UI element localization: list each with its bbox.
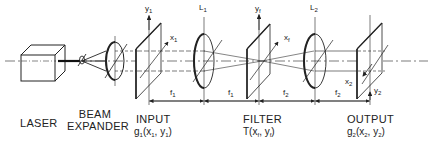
lens-l2-label: L2 bbox=[310, 3, 318, 13]
output-y-axis-label: y2 bbox=[374, 86, 381, 96]
output-plane bbox=[357, 15, 388, 105]
distance-label-f1-a: f1 bbox=[170, 88, 176, 98]
input-label: INPUT bbox=[136, 113, 171, 125]
distance-label-f1-b: f1 bbox=[228, 88, 234, 98]
lens-l1-label: L1 bbox=[199, 3, 207, 13]
distance-label-f2-b: f2 bbox=[335, 88, 341, 98]
beam-expander-icon bbox=[78, 51, 106, 71]
distance-label-f2-a: f2 bbox=[283, 88, 289, 98]
output-function: g2(x2, y2) bbox=[347, 126, 385, 138]
beam-expander-label: BEAM EXPANDER bbox=[67, 108, 123, 132]
laser-icon bbox=[21, 45, 65, 81]
filter-x-axis-label: xf bbox=[284, 33, 290, 43]
filter-function: T(xf, yf) bbox=[243, 126, 275, 138]
laser-label: LASER bbox=[20, 117, 58, 129]
output-x-axis-label: x2 bbox=[345, 77, 352, 87]
input-y-axis-label: y1 bbox=[145, 4, 152, 14]
filter-label: FILTER bbox=[243, 113, 282, 125]
input-x-axis-label: x1 bbox=[170, 33, 177, 43]
output-label: OUTPUT bbox=[347, 113, 394, 125]
input-function: g1(x1, y1) bbox=[134, 126, 172, 138]
beam-expander-label-line1: BEAM bbox=[67, 108, 123, 120]
beam-expander-label-line2: EXPANDER bbox=[67, 120, 123, 132]
filter-y-axis-label: yf bbox=[255, 4, 261, 14]
